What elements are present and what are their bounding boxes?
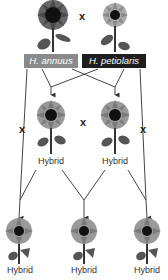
sunflower-hybrid-f2-left-icon [4,218,34,266]
cross-symbol-f1: x [80,117,86,128]
sunflower-hybrid-f2-middle-icon [69,218,99,266]
hybrid-label-f2-middle: Hybrid [64,265,104,275]
cross-symbol-backcross-left: x [19,124,25,135]
hybrid-label-f1-right: Hybrid [95,156,135,166]
hybrid-label-f2-right: Hybrid [127,265,167,275]
sunflower-hybrid-f1-right-icon [99,100,131,154]
hybrid-label-f2-left: Hybrid [0,265,40,275]
sunflower-petiolaris-icon [98,2,132,52]
sunflower-hybrid-f2-right-icon [132,218,162,266]
sunflower-annuus-icon [33,0,73,52]
species-label-petiolaris: H. petiolaris [82,54,146,68]
cross-symbol-parents: x [79,11,85,22]
species-label-annuus: H. annuus [24,54,78,68]
sunflower-hybrid-f1-left-icon [35,100,67,154]
cross-symbol-backcross-right: x [140,124,146,135]
hybrid-label-f1-left: Hybrid [31,156,71,166]
